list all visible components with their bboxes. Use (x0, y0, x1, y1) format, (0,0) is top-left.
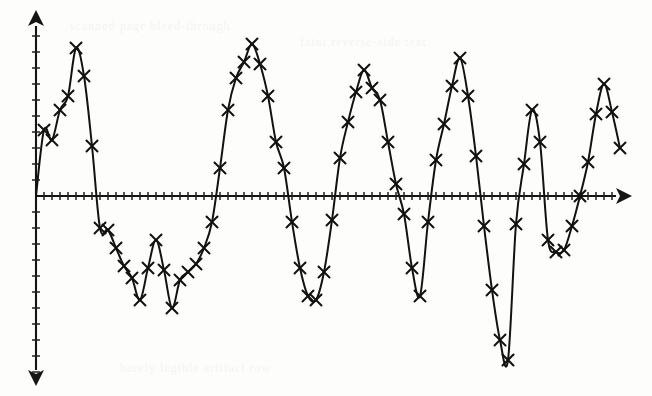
ghost-text-line-1: scanned page bleed-through (70, 19, 231, 33)
ghost-text-line-3: barely legible artifact row (120, 361, 271, 375)
signal-curve (36, 44, 620, 367)
data-point-marker (455, 53, 466, 64)
data-point-marker (351, 87, 362, 98)
data-point-marker (255, 59, 266, 70)
y-axis-up-arrowhead-icon (28, 10, 44, 26)
figure-root: scanned page bleed-through faint reverse… (0, 0, 652, 396)
data-point-marker (359, 65, 370, 76)
data-point-marker (559, 245, 570, 256)
data-layer (36, 39, 626, 367)
data-point-marker (247, 39, 258, 50)
data-point-marker (119, 261, 130, 272)
data-point-marker (191, 259, 202, 270)
x-axis-arrowhead-icon (616, 188, 632, 204)
data-point-marker (527, 105, 538, 116)
data-point-marker-group (39, 39, 626, 366)
ghost-text-line-2: faint reverse-side text (300, 35, 427, 49)
data-point-marker (599, 79, 610, 90)
data-point-marker (127, 273, 138, 284)
data-point-marker (367, 83, 378, 94)
data-point-marker (239, 57, 250, 68)
plot-canvas: scanned page bleed-through faint reverse… (0, 0, 652, 396)
data-point-marker (71, 43, 82, 54)
data-point-marker (103, 225, 114, 236)
data-point-marker (47, 135, 58, 146)
data-point-marker (151, 235, 162, 246)
data-point-marker (111, 243, 122, 254)
data-point-marker (167, 303, 178, 314)
data-point-marker (135, 295, 146, 306)
data-point-marker (55, 105, 66, 116)
data-point-marker (567, 221, 578, 232)
axes-layer (28, 10, 632, 386)
data-point-marker (199, 243, 210, 254)
data-point-marker (231, 73, 242, 84)
